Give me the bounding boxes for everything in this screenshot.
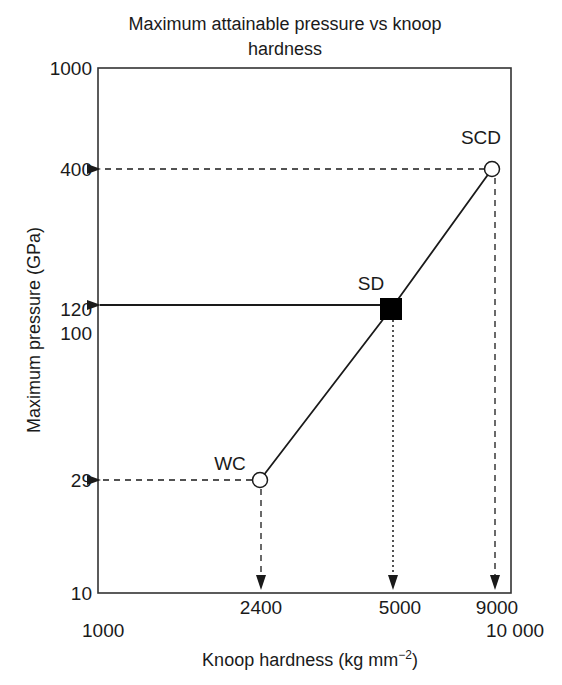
- wc-down-arrow-icon: [256, 575, 266, 590]
- scd-down-arrow-icon: [490, 575, 500, 590]
- y-tick-1000: 1000: [50, 58, 92, 79]
- data-line: [260, 169, 492, 480]
- chart-title-line-1: Maximum attainable pressure vs knoop: [128, 14, 441, 34]
- x-tick-10000: 10 000: [486, 620, 544, 641]
- y-tick-29: 29: [71, 470, 92, 491]
- point-label-wc: WC: [214, 453, 246, 474]
- wc-open-circle-icon: [253, 473, 268, 488]
- x-tick-2400: 2400: [240, 597, 282, 618]
- plot-frame: [98, 68, 511, 593]
- chart: Maximum attainable pressure vs knoop har…: [0, 0, 562, 685]
- x-axis-title: Knoop hardness (kg mm−2): [202, 648, 418, 670]
- x-tick-1000: 1000: [82, 620, 124, 641]
- scd-open-circle-icon: [485, 162, 500, 177]
- y-tick-120: 120: [60, 299, 92, 320]
- point-label-scd: SCD: [461, 127, 501, 148]
- chart-title-line-2: hardness: [248, 39, 322, 59]
- sd-filled-square-icon: [380, 298, 402, 320]
- y-tick-100: 100: [60, 323, 92, 344]
- x-tick-9000: 9000: [476, 597, 518, 618]
- y-tick-10: 10: [71, 583, 92, 604]
- y-tick-400: 400: [60, 159, 92, 180]
- point-label-sd: SD: [358, 273, 384, 294]
- sd-down-arrow-icon: [388, 575, 398, 590]
- x-tick-5000: 5000: [379, 597, 421, 618]
- y-axis-title: Maximum pressure (GPa): [24, 227, 44, 433]
